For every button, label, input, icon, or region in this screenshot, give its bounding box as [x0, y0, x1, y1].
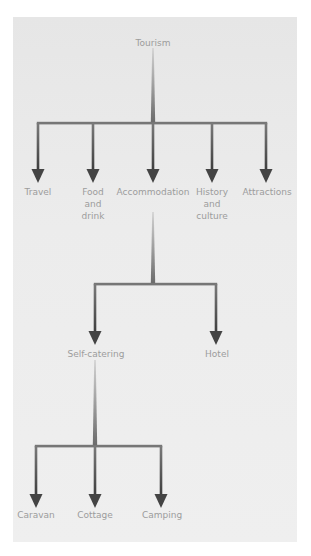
level2-stem — [151, 212, 155, 284]
level3-branch-line-2 — [160, 446, 163, 495]
node-travel: Travel — [25, 186, 52, 198]
node-accommodation: Accommodation — [117, 186, 190, 198]
level1-arrowhead-icon-2 — [147, 169, 160, 183]
level1-branch-line-4 — [265, 123, 268, 170]
node-tourism: Tourism — [136, 37, 171, 49]
level2-branch-line-1 — [215, 284, 218, 332]
level3-arrowhead-icon-1 — [89, 494, 102, 508]
level3-branch-line-1 — [94, 446, 97, 495]
level1-arrowhead-icon-4 — [260, 169, 273, 183]
level1-arrowhead-icon-0 — [32, 169, 45, 183]
node-cottage: Cottage — [77, 509, 113, 521]
level1-arrowhead-icon-1 — [87, 169, 100, 183]
level1-branch-line-2 — [152, 123, 155, 170]
level3-branch-line-0 — [35, 446, 38, 495]
level2-crossbar — [94, 283, 217, 286]
node-history-and-culture: History and culture — [196, 186, 228, 222]
level3-arrowhead-icon-0 — [30, 494, 43, 508]
level2-arrowhead-icon-0 — [89, 331, 102, 345]
node-food-and-drink: Food and drink — [82, 186, 105, 222]
node-caravan: Caravan — [17, 509, 55, 521]
level1-branch-line-3 — [211, 123, 214, 170]
level1-arrowhead-icon-3 — [206, 169, 219, 183]
level2-arrowhead-icon-1 — [210, 331, 223, 345]
level2-branch-line-0 — [94, 284, 97, 332]
node-attractions: Attractions — [242, 186, 291, 198]
node-hotel: Hotel — [205, 348, 229, 360]
level1-branch-line-0 — [37, 123, 40, 170]
node-camping: Camping — [142, 509, 182, 521]
tree-diagram — [0, 0, 311, 556]
level1-branch-line-1 — [92, 123, 95, 170]
level3-stem — [93, 360, 97, 446]
level1-stem — [151, 48, 155, 123]
node-self-catering: Self-catering — [68, 348, 125, 360]
level3-arrowhead-icon-2 — [155, 494, 168, 508]
level3-crossbar — [35, 445, 162, 448]
